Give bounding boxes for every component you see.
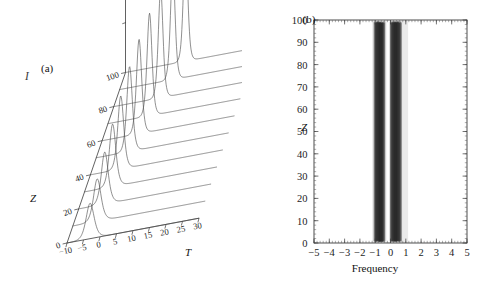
panel-a-z-tick-label: 100 xyxy=(105,69,120,83)
panel-b-x-tick-label: 5 xyxy=(464,247,469,258)
panel-b-y-tick-label: 70 xyxy=(297,82,308,93)
panel-a-floor-axes xyxy=(67,73,199,244)
panel-a-waterfall-plot: 020406080100−10−5051015202530 (a) T Z I xyxy=(0,0,242,284)
panel-b-spectrum-map: −5−4−3−2−10123450102030405060708090100 (… xyxy=(242,0,484,284)
panel-b-svg: −5−4−3−2−10123450102030405060708090100 (… xyxy=(242,0,484,284)
panel-b-x-tick-label: 3 xyxy=(434,247,439,258)
panel-a-z-tick-label: 80 xyxy=(97,103,108,115)
panel-a-t-tick-label: 20 xyxy=(159,226,169,237)
panel-b-y-tick-label: 90 xyxy=(297,37,308,48)
panel-b-x-tick-label: −3 xyxy=(339,247,350,258)
panel-b-x-tick-label: −2 xyxy=(354,247,365,258)
panel-b-y-axis-title: Z xyxy=(301,121,308,133)
panel-b-right-band xyxy=(389,21,402,242)
panel-a-trace-z10 xyxy=(73,179,205,226)
panel-a-t-tick-label: 10 xyxy=(126,233,136,244)
panel-a-trace-z60 xyxy=(102,39,234,140)
panel-b-left-band xyxy=(374,21,386,242)
panel-a-t-tick-label: 5 xyxy=(112,236,118,247)
panel-a-t-tick-label: 0 xyxy=(95,239,101,250)
panel-b-x-tick-label: 4 xyxy=(449,247,455,258)
panel-b-label: (b) xyxy=(303,13,316,26)
panel-a-t-tick-label: −5 xyxy=(76,242,87,254)
panel-a-svg: 020406080100−10−5051015202530 (a) T Z I xyxy=(0,0,242,284)
panel-b-x-tick-label: −4 xyxy=(324,247,336,258)
panel-b-x-tick-label: 2 xyxy=(418,247,423,258)
panel-a-trace-z80 xyxy=(114,0,242,107)
panel-a-t-tick-label: 30 xyxy=(192,220,202,231)
panel-b-x-tick-label: −1 xyxy=(370,247,381,258)
panel-a-z-axis-title: Z xyxy=(30,192,37,204)
panel-b-x-tick-label: 1 xyxy=(403,247,408,258)
panel-a-t-tick-label: −10 xyxy=(58,244,73,256)
panel-b-y-tick-label: 40 xyxy=(297,149,308,160)
panel-b-y-tick-label: 10 xyxy=(297,216,308,227)
panel-a-x-axis-title: T xyxy=(185,246,192,258)
panel-a-t-tick-label: 15 xyxy=(143,229,153,240)
panel-b-x-tick-label: −5 xyxy=(308,247,319,258)
panel-a-z-tick-label: 60 xyxy=(85,138,96,150)
panel-a-trace-z70 xyxy=(108,13,240,123)
panel-b-y-tick-label: 60 xyxy=(297,104,308,115)
panel-a-t-tick-label: 25 xyxy=(176,223,186,234)
panel-b-y-tick-label: 20 xyxy=(297,193,308,204)
panel-b-spectral-gap xyxy=(387,21,390,242)
panel-b-x-tick-label: 0 xyxy=(388,247,393,258)
panel-a-y-axis-title: I xyxy=(24,70,30,82)
panel-a-label: (a) xyxy=(41,62,54,75)
panel-a-trace-z100 xyxy=(126,0,243,73)
panel-b-y-tick-label: 80 xyxy=(297,60,308,71)
panel-b-y-tick-label: 0 xyxy=(302,238,307,249)
panel-a-z-tick-label: 40 xyxy=(74,172,85,184)
panel-b-y-tick-label: 30 xyxy=(297,171,308,182)
panel-a-z-tick xyxy=(63,243,67,244)
panel-a-z-tick-label: 20 xyxy=(62,206,73,218)
figure-container: 020406080100−10−5051015202530 (a) T Z I … xyxy=(0,0,484,284)
panel-b-x-axis-title: Frequency xyxy=(352,262,399,274)
